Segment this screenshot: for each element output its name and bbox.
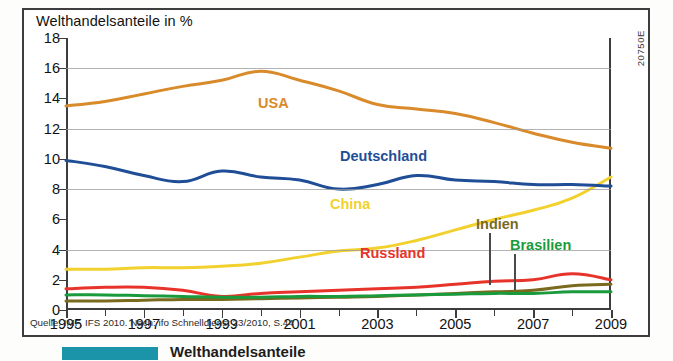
y-tick-label: 10 — [44, 151, 60, 167]
leader-line-indien — [489, 233, 491, 285]
y-tick-mark — [59, 310, 66, 311]
x-tick-label: 2009 — [595, 316, 627, 332]
source-note: Quelle: IMF, IFS 2010. Nach: ifo Schnell… — [30, 317, 294, 328]
x-tick-label: 2003 — [361, 316, 393, 332]
caption-color-bar — [62, 347, 158, 360]
series-label-deutschland: Deutschland — [340, 148, 427, 164]
page-title: Welthandelsanteile in % — [36, 13, 193, 29]
series-lines — [66, 38, 611, 310]
series-label-russland: Russland — [360, 245, 425, 261]
y-tick-label: 14 — [44, 90, 60, 106]
y-tick-mark — [59, 98, 66, 99]
y-tick-mark — [59, 68, 66, 69]
y-tick-mark — [59, 129, 66, 130]
y-axis-labels: 024681012141618 — [36, 38, 60, 310]
gridline — [66, 189, 611, 190]
series-line-brasilien — [66, 292, 611, 298]
x-tick-label: 2005 — [439, 316, 471, 332]
catalog-code: 20750E — [635, 30, 646, 66]
y-tick-mark — [59, 38, 66, 39]
gridline — [66, 68, 611, 69]
chart-page: Welthandelsanteile in % 20750E 024681012… — [0, 0, 673, 361]
x-tick-label: 2007 — [517, 316, 549, 332]
series-line-china — [66, 177, 611, 269]
series-label-brasilien: Brasilien — [510, 237, 571, 253]
series-label-usa: USA — [258, 95, 289, 111]
y-tick-mark — [59, 159, 66, 160]
y-tick-label: 12 — [44, 121, 60, 137]
leader-line-brasilien — [514, 254, 516, 290]
caption-strip: Welthandelsanteile — [0, 345, 673, 361]
series-label-china: China — [330, 196, 370, 212]
y-tick-mark — [59, 280, 66, 281]
series-line-deutschland — [66, 160, 611, 189]
series-line-usa — [66, 71, 611, 148]
plot-area — [66, 38, 611, 310]
y-tick-mark — [59, 189, 66, 190]
caption-text: Welthandelsanteile — [170, 345, 306, 360]
gridline — [66, 129, 611, 130]
y-tick-label: 16 — [44, 60, 60, 76]
series-label-indien: Indien — [476, 216, 519, 232]
y-tick-mark — [59, 219, 66, 220]
y-tick-label: 18 — [44, 30, 60, 46]
y-tick-mark — [59, 250, 66, 251]
